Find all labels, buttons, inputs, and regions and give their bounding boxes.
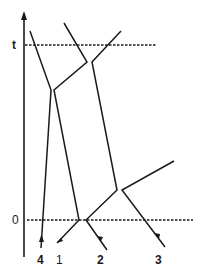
worldline-4 <box>30 31 51 248</box>
arrow-4-icon <box>39 234 44 242</box>
worldline-2-upper <box>86 31 121 250</box>
label-0: 0 <box>12 214 19 226</box>
spacetime-diagram <box>0 0 209 280</box>
label-t: t <box>12 39 16 51</box>
time-axis <box>21 11 27 257</box>
label-particle-3: 3 <box>155 254 162 266</box>
label-particle-1: 1 <box>56 254 63 266</box>
worldline-1-upper <box>54 23 87 243</box>
axis-arrow-icon <box>21 11 27 20</box>
worldline-3 <box>122 161 174 247</box>
arrow-3-icon <box>154 233 160 239</box>
label-particle-2: 2 <box>97 254 104 266</box>
label-particle-4: 4 <box>37 254 44 266</box>
